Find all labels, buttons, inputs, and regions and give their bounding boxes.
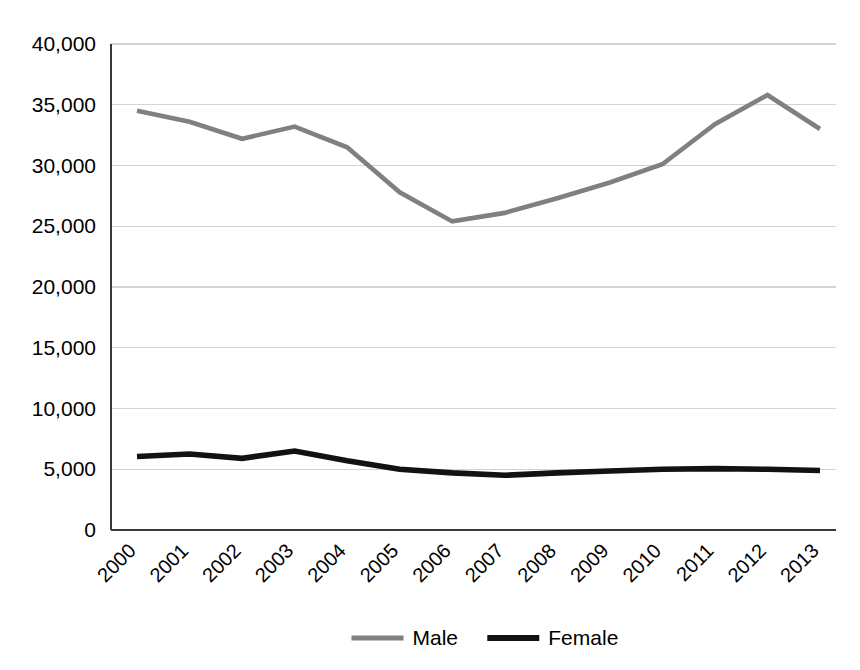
legend-label-male: Male (413, 626, 459, 649)
y-tick-label: 5,000 (43, 457, 96, 480)
y-tick-label: 10,000 (32, 397, 96, 420)
legend-label-female: Female (548, 626, 618, 649)
line-chart: 05,00010,00015,00020,00025,00030,00035,0… (0, 0, 860, 670)
y-tick-label: 0 (84, 518, 96, 541)
chart-canvas: 05,00010,00015,00020,00025,00030,00035,0… (0, 0, 860, 670)
y-tick-label: 25,000 (32, 214, 96, 237)
y-tick-label: 20,000 (32, 275, 96, 298)
y-tick-label: 35,000 (32, 93, 96, 116)
y-tick-label: 15,000 (32, 336, 96, 359)
y-tick-label: 40,000 (32, 32, 96, 55)
y-tick-label: 30,000 (32, 154, 96, 177)
